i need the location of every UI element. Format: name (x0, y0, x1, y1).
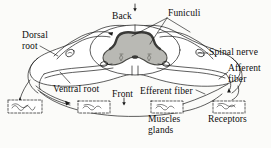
label-muscles-line1: Muscles (148, 114, 180, 124)
label-muscles-glands: Muscles glands (148, 114, 192, 135)
label-ventral-root: Ventral root (53, 84, 99, 95)
label-back: Back (112, 11, 132, 22)
label-afferent-fiber: Afferent fiber (228, 63, 270, 84)
spinal-cord-diagram-figure: Back Funiculi Dorsal root Spinal nerve A… (0, 0, 271, 148)
label-afferent-fiber-line2: fiber (228, 74, 246, 84)
central-canal (132, 55, 138, 59)
label-muscles-line2: glands (148, 125, 173, 135)
label-funiculi: Funiculi (168, 8, 200, 19)
label-dorsal-root: Dorsal root (22, 30, 62, 51)
label-efferent-fiber: Efferent fiber (140, 86, 193, 97)
label-spinal-nerve: Spinal nerve (209, 47, 258, 58)
label-dorsal-root-line1: Dorsal (22, 30, 48, 40)
label-receptors: Receptors (208, 114, 247, 125)
label-front: Front (112, 89, 133, 100)
label-dorsal-root-line2: root (22, 41, 38, 51)
label-afferent-fiber-line1: Afferent (228, 63, 261, 73)
